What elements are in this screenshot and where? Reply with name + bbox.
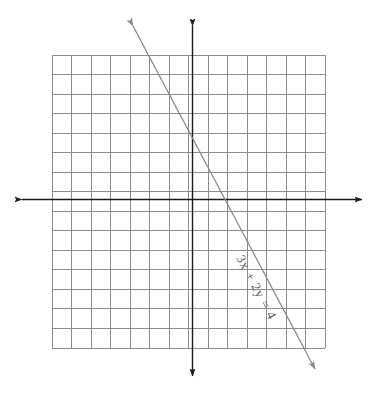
graph-figure: 3x + 2y = 4 xyxy=(0,0,384,401)
coordinate-plane-svg: 3x + 2y = 4 xyxy=(0,0,384,401)
